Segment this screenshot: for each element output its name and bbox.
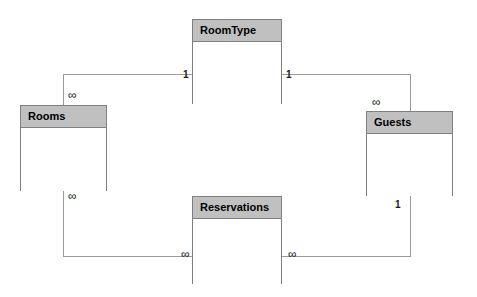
cardinality-guests-top: ∞ — [372, 97, 380, 107]
entity-roomtype[interactable]: RoomType — [192, 19, 282, 104]
entity-roomtype-title: RoomType — [193, 20, 281, 42]
entity-roomtype-body — [193, 42, 281, 104]
cardinality-reservations-right: ∞ — [288, 249, 296, 259]
entity-reservations-body — [193, 219, 281, 284]
entity-rooms-title: Rooms — [21, 106, 106, 128]
edge-rooms-reservations — [63, 191, 192, 256]
entity-guests-title: Guests — [367, 112, 452, 134]
edge-guests-reservations — [282, 196, 410, 256]
cardinality-reservations-left: ∞ — [181, 249, 189, 259]
cardinality-roomtype-right: 1 — [286, 70, 292, 80]
entity-reservations[interactable]: Reservations — [192, 196, 282, 284]
cardinality-guests-bottom: 1 — [395, 200, 401, 210]
edge-roomtype-rooms — [63, 74, 192, 105]
entity-guests-body — [367, 134, 452, 196]
edge-roomtype-guests — [282, 74, 410, 111]
cardinality-roomtype-left: 1 — [183, 70, 189, 80]
cardinality-rooms-top: ∞ — [68, 90, 76, 100]
cardinality-rooms-bottom: ∞ — [68, 191, 76, 201]
entity-rooms-body — [21, 128, 106, 191]
er-diagram-canvas: RoomType Rooms Guests Reservations 1 1 ∞… — [0, 0, 477, 297]
entity-rooms[interactable]: Rooms — [20, 105, 107, 191]
entity-reservations-title: Reservations — [193, 197, 281, 219]
entity-guests[interactable]: Guests — [366, 111, 453, 196]
